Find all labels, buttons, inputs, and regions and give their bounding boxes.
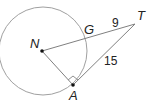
label-g: G xyxy=(84,22,94,37)
length-at: 15 xyxy=(104,54,118,68)
tangent-diagram: N G T A 9 15 xyxy=(0,0,148,103)
label-t: T xyxy=(137,8,146,23)
length-gt: 9 xyxy=(112,16,119,30)
point-a xyxy=(71,83,75,87)
point-n xyxy=(40,49,44,53)
label-n: N xyxy=(30,36,40,51)
label-a: A xyxy=(68,88,78,103)
right-angle-marker xyxy=(68,76,78,80)
